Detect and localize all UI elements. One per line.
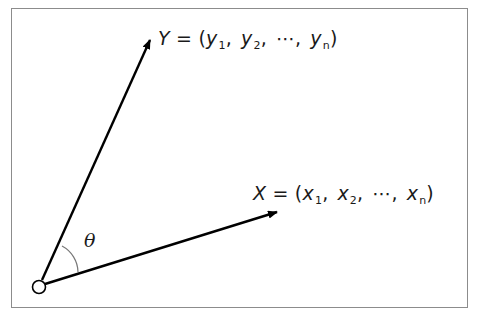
subscript: 2 [253,39,260,52]
component: x [302,182,313,204]
subscript: 1 [219,39,226,52]
caption-cutoff [40,318,340,327]
angle-theta-label: θ [84,229,95,251]
angle-arc [62,246,78,272]
ellipsis: ⋯ [276,27,295,49]
separator: , [295,27,301,49]
separator: , [391,182,397,204]
close-paren: ) [330,27,338,49]
component: y [206,27,217,49]
equals-sign: = [272,182,288,204]
equals-sign: = [176,27,192,49]
vector-y-label: Y = (y1,y2,⋯,yn) [158,27,338,52]
open-paren: ( [198,27,206,49]
component: y [241,27,252,49]
separator: , [357,182,363,204]
vector-x-label: X = (x1,x2,⋯,xn) [253,182,434,207]
separator: , [226,27,232,49]
vector-y-arrow [42,40,150,280]
x-symbol: X [253,182,266,204]
ellipsis: ⋯ [372,182,391,204]
component: y [310,27,321,49]
origin-circle-icon [33,281,46,294]
close-paren: ) [426,182,434,204]
component: x [407,182,418,204]
component: x [337,182,348,204]
y-symbol: Y [158,27,170,49]
separator: , [261,27,267,49]
subscript: 2 [350,194,357,207]
separator: , [322,182,328,204]
subscript: n [323,39,330,52]
vector-x-arrow [45,212,277,284]
